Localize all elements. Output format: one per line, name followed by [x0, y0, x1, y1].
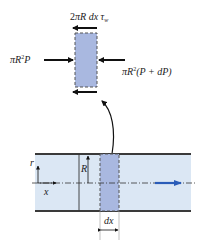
shear-force-label: 2πR dx τw [70, 11, 108, 23]
r-axis-label: r [30, 157, 34, 168]
pipe-section: R r x dx [30, 154, 195, 240]
x-axis-label: x [43, 186, 49, 197]
left-pressure-force-label: πR2P [10, 54, 30, 65]
fluid-element [75, 33, 97, 87]
dx-label: dx [104, 215, 114, 226]
element-callout-arrow [102, 101, 114, 154]
pipe-fluid-element [100, 154, 119, 211]
right-pressure-force-label: πR2(P + dP) [122, 66, 172, 78]
radius-label: R [80, 163, 87, 174]
pipe-flow-force-balance-diagram: 2πR dx τw πR2P πR2(P + dP) R r x [0, 0, 203, 243]
free-body-diagram: 2πR dx τw πR2P πR2(P + dP) [10, 11, 172, 92]
